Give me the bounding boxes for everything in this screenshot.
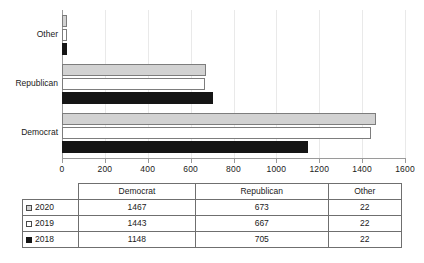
legend-row-2019: 2019 bbox=[23, 216, 79, 232]
table-header-row: Democrat Republican Other bbox=[23, 184, 402, 200]
white-square-icon bbox=[26, 221, 32, 227]
x-axis-tick-label: 1200 bbox=[299, 164, 339, 174]
table-body: 202014676732220191443667222018114870522 bbox=[23, 200, 402, 248]
category-label-other: Other bbox=[0, 29, 58, 39]
x-axis-tick bbox=[148, 159, 149, 163]
table-row: 2019144366722 bbox=[23, 216, 402, 232]
bar-republican-2020 bbox=[62, 64, 206, 76]
category-label-democrat: Democrat bbox=[0, 127, 58, 137]
table-cell: 667 bbox=[195, 216, 328, 232]
gray-square-icon bbox=[26, 205, 32, 211]
table-column-header: Democrat bbox=[79, 184, 196, 200]
gridline bbox=[405, 10, 406, 158]
bar-democrat-2019 bbox=[62, 127, 371, 139]
x-axis-tick bbox=[105, 159, 106, 163]
bar-other-2019 bbox=[62, 29, 67, 41]
bar-democrat-2018 bbox=[62, 141, 308, 153]
x-axis-tick bbox=[276, 159, 277, 163]
data-table: Democrat Republican Other 20201467673222… bbox=[22, 183, 402, 248]
x-axis-tick-label: 1000 bbox=[256, 164, 296, 174]
black-square-icon bbox=[26, 237, 32, 243]
table-cell: 705 bbox=[195, 232, 328, 248]
bar-other-2020 bbox=[62, 15, 67, 27]
legend-row-2020: 2020 bbox=[23, 200, 79, 216]
chart-page: 02004006008001000120014001600 OtherRepub… bbox=[0, 0, 424, 263]
x-axis-tick-label: 400 bbox=[128, 164, 168, 174]
x-axis-tick-label: 1400 bbox=[342, 164, 382, 174]
category-label-republican: Republican bbox=[0, 78, 58, 88]
legend-row-2018: 2018 bbox=[23, 232, 79, 248]
table-cell: 1148 bbox=[79, 232, 196, 248]
x-axis-tick bbox=[234, 159, 235, 163]
plot-area bbox=[62, 10, 405, 158]
x-axis-tick bbox=[191, 159, 192, 163]
table-row: 2020146767322 bbox=[23, 200, 402, 216]
table-cell: 22 bbox=[328, 232, 401, 248]
x-axis-tick-label: 1600 bbox=[385, 164, 424, 174]
table-cell: 673 bbox=[195, 200, 328, 216]
bar-republican-2018 bbox=[62, 92, 213, 104]
table-column-header: Republican bbox=[195, 184, 328, 200]
legend-label: 2018 bbox=[35, 234, 54, 244]
table-corner-cell bbox=[23, 184, 79, 200]
table-cell: 22 bbox=[328, 216, 401, 232]
x-axis-tick-label: 200 bbox=[85, 164, 125, 174]
bar-other-2018 bbox=[62, 43, 67, 55]
table-column-header: Other bbox=[328, 184, 401, 200]
x-axis-tick-label: 600 bbox=[171, 164, 211, 174]
table-cell: 22 bbox=[328, 200, 401, 216]
x-axis-tick bbox=[405, 159, 406, 163]
legend-label: 2019 bbox=[35, 218, 54, 228]
legend-label: 2020 bbox=[35, 202, 54, 212]
table-row: 2018114870522 bbox=[23, 232, 402, 248]
bar-chart: 02004006008001000120014001600 OtherRepub… bbox=[0, 0, 424, 178]
x-axis-tick bbox=[319, 159, 320, 163]
bar-democrat-2020 bbox=[62, 113, 376, 125]
x-axis-tick bbox=[62, 159, 63, 163]
x-axis-tick bbox=[362, 159, 363, 163]
x-axis-tick-label: 800 bbox=[214, 164, 254, 174]
bar-republican-2019 bbox=[62, 78, 205, 90]
table-cell: 1443 bbox=[79, 216, 196, 232]
x-axis-tick-label: 0 bbox=[42, 164, 82, 174]
table-cell: 1467 bbox=[79, 200, 196, 216]
